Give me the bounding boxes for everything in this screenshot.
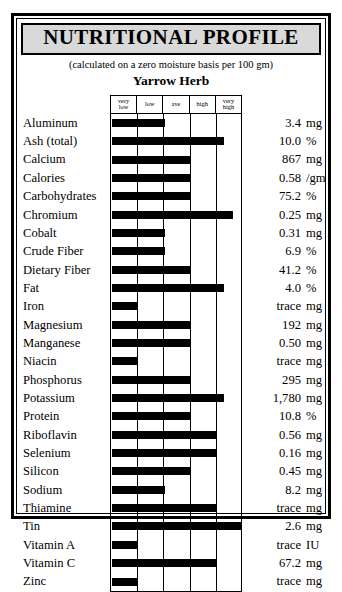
nutrient-value: 0.58 [249,172,301,185]
grid-line [216,316,217,334]
nutrient-unit: mg [306,319,336,332]
nutrient-unit: mg [306,557,336,570]
nutrient-value: 10.0 [249,135,301,148]
nutrient-bar-track [110,132,242,150]
nutrient-name: Chromium [23,206,109,224]
nutrient-unit: mg [306,429,336,442]
nutrient-name: Protein [23,407,109,425]
nutrient-name: Crude Fiber [23,242,109,260]
nutrient-bar-track [110,407,242,425]
nutrient-bar-track [110,151,242,169]
nutrient-name: Selenium [23,444,109,462]
nutrient-bar-track [110,206,242,224]
nutrient-name: Sodium [23,481,109,499]
nutrient-row: Riboflavin0.56mg [21,426,321,444]
nutrient-row: Crude Fiber6.9% [21,242,321,260]
nutrient-level-bar [112,229,165,237]
nutrient-value: 295 [249,374,301,387]
grid-line [216,352,217,370]
nutrient-bar-track [110,462,242,480]
grid-line [216,151,217,169]
nutrient-name: Thiamine [23,499,109,517]
nutrient-value: 1,780 [249,392,301,405]
card-inner-frame: NUTRITIONAL PROFILE (calculated on a zer… [16,18,326,514]
nutrient-unit: % [306,135,336,148]
nutrient-unit: mg [306,153,336,166]
nutrient-unit: mg [306,117,336,130]
nutrient-unit: mg [306,520,336,533]
nutrient-unit: mg [306,355,336,368]
grid-line [190,481,191,499]
nutrient-name: Dietary Fiber [23,261,109,279]
nutrient-bar-track [110,261,242,279]
nutrient-level-bar [112,302,137,310]
nutrient-row: Manganese0.50mg [21,334,321,352]
grid-line [216,481,217,499]
nutrient-bar-track [110,573,242,591]
nutrient-level-bar [112,284,224,292]
nutrient-level-bar [112,357,138,365]
nutrient-bar-chart: verylowlowavehighveryhigh Aluminum3.4mgA… [21,95,321,509]
nutrient-value: 867 [249,153,301,166]
nutrient-value: 3.4 [249,117,301,130]
nutrient-unit: mg [306,484,336,497]
nutrient-value: 0.25 [249,209,301,222]
grid-line [216,187,217,205]
nutrient-bar-track [110,481,242,499]
nutrient-unit: mg [306,337,336,350]
nutrient-name: Aluminum [23,114,109,132]
nutrient-name: Carbohydrates [23,187,109,205]
nutrient-row: Irontracemg [21,297,321,315]
grid-line [216,297,217,315]
grid-line [190,114,191,132]
nutrient-level-bar [112,211,233,219]
nutrient-value: 0.56 [249,429,301,442]
nutrient-name: Niacin [23,352,109,370]
nutrient-level-bar [112,412,191,420]
nutrient-row: Selenium0.16mg [21,444,321,462]
nutrient-bar-track [110,224,242,242]
nutrient-level-bar [112,119,165,127]
nutrient-row: Chromium0.25mg [21,206,321,224]
grid-line [190,224,191,242]
nutrient-row: Ash (total)10.0% [21,132,321,150]
nutrient-row: Thiaminetracemg [21,499,321,517]
nutrient-unit: mg [306,227,336,240]
grid-line [163,352,164,370]
nutrient-name: Riboflavin [23,426,109,444]
nutrient-level-bar [112,467,191,475]
nutrient-level-bar [112,321,191,329]
nutrient-name: Cobalt [23,224,109,242]
nutrient-level-bar [112,156,191,164]
nutrient-level-bar [112,559,217,567]
grid-line [190,242,191,260]
nutrient-value: 67.2 [249,557,301,570]
nutrient-value: 0.50 [249,337,301,350]
nutrient-bar-track [110,499,242,517]
nutrient-unit: mg [306,502,336,515]
nutrient-row: Magnesium192mg [21,316,321,334]
nutrient-bar-track [110,297,242,315]
nutrient-name: Magnesium [23,316,109,334]
grid-line [137,297,138,315]
nutrient-bar-track [110,517,242,535]
nutrient-name: Iron [23,297,109,315]
nutrient-unit: % [306,190,336,203]
nutrient-row: Cobalt0.31mg [21,224,321,242]
nutrient-bar-track [110,554,242,572]
nutrient-value: 75.2 [249,190,301,203]
nutrient-row: Vitamin AtraceIU [21,536,321,554]
nutrient-value: trace [249,502,301,515]
nutrient-name: Fat [23,279,109,297]
nutrient-unit: mg [306,575,336,588]
nutrient-name: Silicon [23,462,109,480]
herb-name-heading: Yarrow Herb [21,73,321,95]
nutrient-row: Zinctracemg [21,573,321,591]
nutrient-value: 41.2 [249,264,301,277]
nutrient-level-bar [112,394,224,402]
nutrient-bar-track [110,316,242,334]
nutrient-unit: mg [306,300,336,313]
grid-line [190,352,191,370]
grid-line [216,407,217,425]
nutrient-unit: mg [306,392,336,405]
